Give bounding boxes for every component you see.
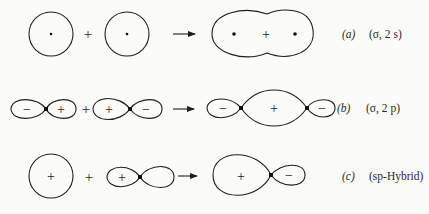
p-orbital: + [107,167,174,188]
row-description-a: (σ, 2 s) [369,28,402,41]
orbital-sign: − [23,102,31,117]
p-orbital-right: + − [93,99,162,120]
node-icon [305,106,309,110]
orbital-sign: + [118,170,126,185]
orbital-sign: − [285,168,293,183]
orbital-sign: − [219,101,227,116]
nucleus-dot-icon [293,32,297,36]
nucleus-dot-icon [50,33,53,36]
orbital-sign: + [262,27,270,42]
orbital-sign: + [47,169,55,184]
node-icon [269,173,273,177]
orbital-sign: + [237,169,245,184]
s-orbital-left [29,12,73,56]
node-icon [44,107,48,111]
row-letter-c: (c) [342,170,355,183]
orbital-sign: + [270,101,278,116]
row-description-b: (σ, 2 p) [366,102,400,115]
row-description-c: (sp-Hybrid) [369,170,423,183]
row-letter-a: (a) [342,28,356,41]
p-orbital-left: − + [11,100,76,119]
node-icon [239,106,243,110]
row-c: + + + + − (c) (sp-Hybrid) [29,154,423,198]
orbital-sign: + [57,102,65,117]
node-icon [128,107,132,111]
orbital-sign: + [105,102,113,117]
row-a: + + (a) (σ, 2 s) [29,10,402,57]
plus-operator: + [84,26,92,42]
orbital-diagram: + + (a) (σ, 2 s) − + + + − [0,0,429,214]
orbital-sign: − [142,102,150,117]
s-orbital-right [105,12,149,56]
nucleus-dot-icon [126,33,129,36]
plus-operator: + [85,169,93,185]
orbital-sign: − [318,101,326,116]
sigma-2p-orbital: − + − [207,90,335,126]
sp-hybrid-orbital: + − [213,155,305,196]
row-letter-b: (b) [337,102,351,115]
node-icon [138,175,142,179]
s-orbital: + [29,154,73,198]
nucleus-dot-icon [232,32,236,36]
row-b: − + + + − − + − (b) (σ, 2 p) [11,90,400,126]
plus-operator: + [82,101,90,117]
